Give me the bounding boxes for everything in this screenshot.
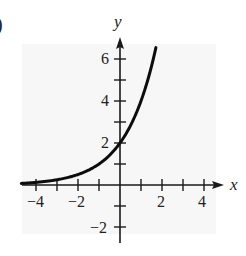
y-tick-label-2: 2 — [101, 134, 109, 151]
y-tick-label-4: 4 — [101, 92, 109, 109]
x-tick-label-neg4: −4 — [27, 193, 44, 210]
x-tick-label-neg2: −2 — [68, 193, 85, 210]
x-tick-label-4: 4 — [198, 193, 206, 210]
exponential-graph: ) x y −4 −2 2 4 6 4 2 −2 — [0, 0, 246, 256]
x-tick-label-2: 2 — [157, 193, 165, 210]
y-tick-label-neg2: −2 — [90, 219, 107, 236]
panel-label-fragment: ) — [0, 13, 3, 36]
x-axis-label: x — [229, 175, 238, 194]
y-axis-label: y — [112, 12, 122, 31]
y-tick-label-6: 6 — [101, 50, 109, 67]
